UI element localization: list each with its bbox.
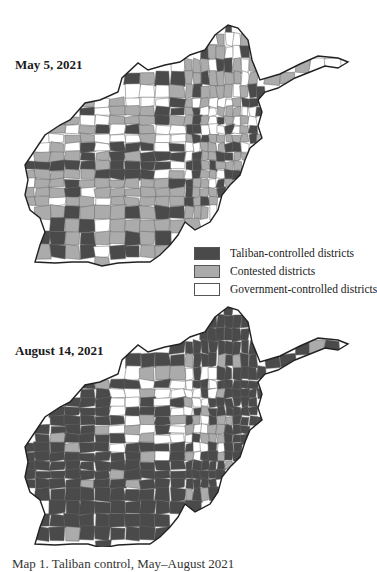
district-contested xyxy=(139,433,157,443)
district-taliban xyxy=(201,340,209,355)
district-government xyxy=(110,135,126,143)
district-government xyxy=(192,388,202,398)
district-contested xyxy=(110,205,126,221)
district-taliban xyxy=(79,219,97,233)
district-taliban xyxy=(50,471,66,479)
district-taliban xyxy=(224,327,232,340)
district-taliban xyxy=(49,461,67,470)
district-taliban xyxy=(169,451,186,461)
district-contested xyxy=(184,397,193,408)
district-taliban xyxy=(111,528,126,540)
district-taliban xyxy=(256,366,266,379)
legend-swatch-contested xyxy=(194,265,220,278)
district-contested xyxy=(125,106,140,117)
district-contested xyxy=(80,205,95,221)
district-taliban xyxy=(80,142,97,153)
district-contested xyxy=(34,205,51,220)
district-government xyxy=(208,108,217,117)
district-taliban xyxy=(224,379,233,389)
district-contested xyxy=(35,187,50,197)
district-taliban xyxy=(94,442,109,452)
district-taliban xyxy=(232,142,242,153)
district-taliban xyxy=(171,460,186,469)
district-contested xyxy=(170,415,186,424)
district-taliban xyxy=(208,451,218,462)
district-contested xyxy=(125,480,141,489)
district-taliban xyxy=(139,489,155,502)
district-contested xyxy=(66,197,80,206)
district-government xyxy=(156,135,171,144)
district-taliban xyxy=(139,479,156,489)
district-taliban xyxy=(154,151,171,161)
district-contested xyxy=(81,169,95,180)
district-taliban xyxy=(240,406,250,416)
district-taliban xyxy=(171,108,185,115)
district-taliban xyxy=(49,231,66,245)
district-contested xyxy=(139,206,156,220)
district-taliban xyxy=(216,406,226,417)
district-government xyxy=(125,416,140,427)
district-taliban xyxy=(224,58,232,73)
district-contested xyxy=(208,425,217,435)
district-contested xyxy=(192,415,200,425)
district-contested xyxy=(109,180,125,188)
district-contested xyxy=(200,170,210,179)
district-taliban xyxy=(50,244,66,259)
district-contested xyxy=(156,187,170,196)
district-taliban xyxy=(155,115,171,125)
district-government xyxy=(109,443,126,453)
district-contested xyxy=(140,231,156,245)
district-taliban xyxy=(125,501,141,514)
district-taliban xyxy=(109,379,126,389)
district-contested xyxy=(201,86,210,99)
district-contested xyxy=(240,133,249,142)
district-government xyxy=(208,368,218,380)
district-government xyxy=(185,151,193,161)
district-contested xyxy=(185,218,202,232)
district-taliban xyxy=(240,46,250,58)
district-taliban xyxy=(110,169,127,180)
district-contested xyxy=(34,169,51,180)
district-taliban xyxy=(242,98,251,108)
map-may-2021 xyxy=(0,0,368,275)
district-contested xyxy=(109,106,126,116)
district-contested xyxy=(34,152,51,163)
district-contested xyxy=(209,433,217,443)
district-taliban xyxy=(34,460,50,470)
district-taliban xyxy=(249,397,258,406)
district-government xyxy=(185,380,192,390)
district-government xyxy=(94,246,112,258)
district-taliban xyxy=(140,470,157,480)
district-contested xyxy=(224,72,234,86)
district-contested xyxy=(110,97,125,107)
district-contested xyxy=(139,220,156,233)
district-taliban xyxy=(224,399,234,409)
district-contested xyxy=(169,84,185,98)
legend-label: Government-controlled districts xyxy=(230,283,377,295)
district-contested xyxy=(109,470,126,480)
district-taliban xyxy=(95,502,111,514)
district-contested xyxy=(234,71,242,84)
district-taliban xyxy=(110,415,125,425)
map-label-august: August 14, 2021 xyxy=(15,343,104,359)
district-taliban xyxy=(79,462,94,472)
district-taliban xyxy=(232,328,242,343)
district-contested xyxy=(110,218,126,233)
district-taliban xyxy=(169,206,185,219)
district-taliban xyxy=(79,397,96,408)
district-contested xyxy=(21,187,35,197)
district-contested xyxy=(95,205,112,219)
district-taliban xyxy=(80,152,95,161)
district-taliban xyxy=(141,353,155,368)
district-contested xyxy=(226,106,234,118)
district-contested xyxy=(218,353,227,368)
district-government xyxy=(201,125,210,136)
district-taliban xyxy=(193,160,203,171)
district-taliban xyxy=(169,97,186,107)
district-taliban xyxy=(154,406,171,417)
district-taliban xyxy=(79,433,95,443)
district-taliban xyxy=(109,245,126,260)
district-contested xyxy=(216,46,226,61)
district-taliban xyxy=(170,471,186,479)
legend-label: Contested districts xyxy=(230,265,315,277)
